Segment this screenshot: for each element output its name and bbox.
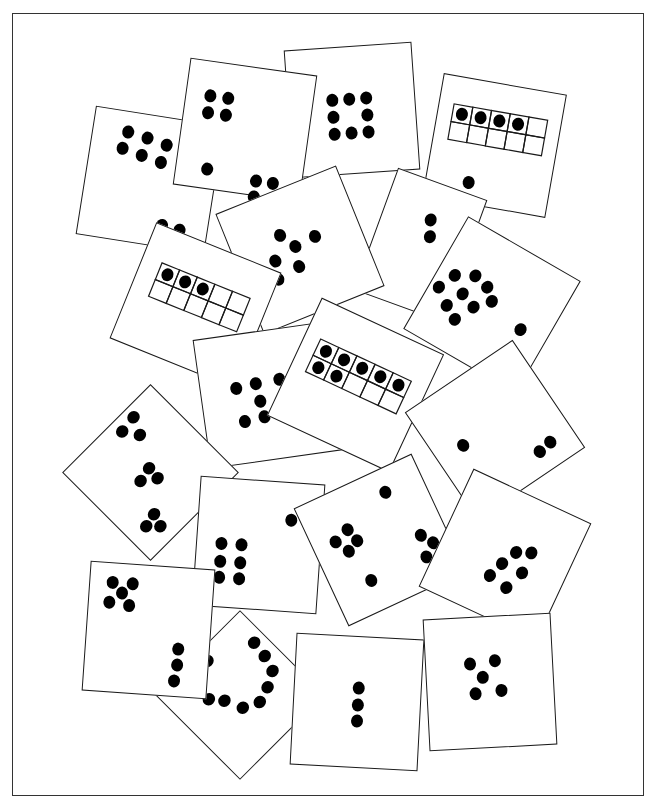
dot (245, 634, 263, 652)
dot (469, 687, 482, 701)
dot (467, 267, 484, 284)
dot (284, 513, 297, 527)
dot (113, 422, 131, 440)
dot (352, 681, 365, 695)
dot (327, 110, 340, 124)
dot (511, 116, 525, 131)
dot-card (290, 633, 425, 772)
dot (229, 381, 243, 396)
dot (287, 238, 303, 255)
dot (377, 484, 393, 501)
dot (328, 368, 344, 385)
dot-card (423, 613, 558, 752)
dot (204, 89, 218, 104)
dot (335, 351, 351, 368)
dot (454, 285, 471, 302)
dot (221, 91, 235, 106)
dot (126, 577, 139, 591)
dot (106, 575, 119, 589)
dot (307, 228, 323, 245)
dot (121, 125, 135, 140)
dot (327, 533, 343, 550)
dot (145, 505, 163, 523)
dot (326, 93, 339, 107)
dot (116, 141, 130, 156)
dot (249, 174, 263, 189)
dot (215, 537, 228, 551)
dot (310, 359, 326, 376)
dot (154, 155, 168, 170)
dot (124, 408, 142, 426)
dot (131, 472, 149, 490)
dot (492, 113, 506, 128)
dot (343, 92, 356, 106)
dot (413, 527, 429, 544)
dot (234, 699, 252, 717)
dot (479, 279, 496, 296)
dot (430, 278, 447, 295)
dot (177, 273, 193, 290)
dot (514, 564, 530, 581)
dot (498, 579, 514, 596)
dot (473, 110, 487, 125)
dot (233, 556, 246, 570)
dot-card-collage (0, 0, 648, 810)
dot (352, 698, 365, 712)
dot (194, 280, 210, 297)
dot (216, 692, 234, 710)
dot (422, 229, 438, 245)
dot (102, 595, 115, 609)
dot (170, 658, 183, 672)
dot (167, 674, 180, 688)
dot (131, 426, 149, 444)
dot (354, 360, 370, 377)
dot (360, 91, 373, 105)
dot (438, 297, 455, 314)
dot (372, 368, 388, 385)
dot (328, 127, 341, 141)
dot (345, 126, 358, 140)
dot (201, 105, 215, 120)
dot (495, 684, 508, 698)
dot (135, 148, 149, 163)
dot (317, 343, 333, 360)
dot (351, 714, 364, 728)
dot (253, 394, 267, 409)
dot (232, 572, 245, 586)
dot (464, 657, 477, 671)
dot (160, 138, 174, 153)
dot (465, 298, 482, 315)
ten-frame (447, 103, 547, 155)
dot (361, 108, 374, 122)
dot (446, 267, 463, 284)
dot (122, 599, 135, 613)
dot (200, 162, 214, 177)
dot (141, 131, 155, 146)
dot (171, 642, 184, 656)
dot (422, 212, 438, 228)
dot (248, 376, 262, 391)
dot (363, 572, 379, 589)
dot (291, 258, 307, 275)
dot (362, 125, 375, 139)
dot (219, 108, 233, 123)
dot (482, 567, 498, 584)
dot-card (81, 561, 215, 699)
dot (259, 678, 277, 696)
dot (494, 555, 510, 572)
dot (446, 311, 463, 328)
dot (461, 175, 475, 190)
dot (523, 545, 539, 562)
dot (256, 647, 274, 665)
dot (238, 414, 252, 429)
dot (476, 671, 489, 685)
dot (455, 437, 472, 454)
dot (483, 293, 500, 310)
dot (115, 586, 128, 600)
dot (267, 253, 283, 270)
dot (159, 266, 175, 283)
dot (508, 544, 524, 561)
dot (512, 321, 529, 338)
dot (489, 654, 502, 668)
dot (235, 538, 248, 552)
